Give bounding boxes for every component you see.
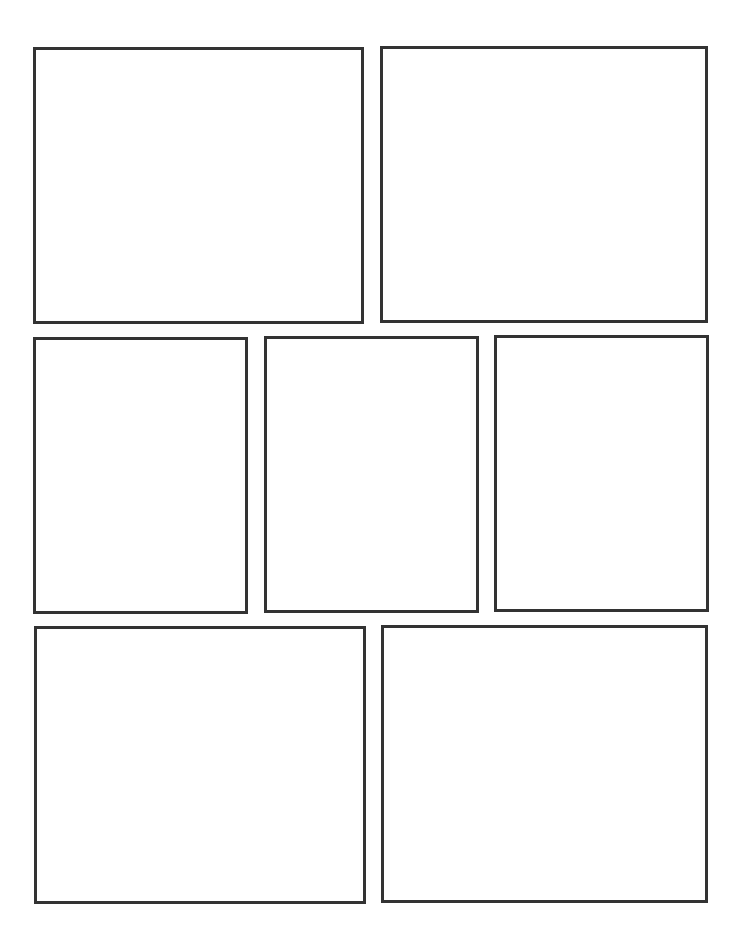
comic-page [0, 0, 738, 935]
panel-7-content [384, 628, 705, 900]
panel-3 [33, 337, 248, 614]
panel-7 [381, 625, 708, 903]
panel-5 [494, 335, 709, 612]
panel-3-content [36, 340, 245, 611]
panel-5-content [497, 338, 706, 609]
panel-4 [264, 336, 479, 613]
panel-4-content [267, 339, 476, 610]
panel-2 [380, 46, 708, 323]
panel-6-content [37, 629, 363, 901]
panel-1 [33, 47, 364, 324]
panel-2-content [383, 49, 705, 320]
panel-1-content [36, 50, 361, 321]
panel-6 [34, 626, 366, 904]
